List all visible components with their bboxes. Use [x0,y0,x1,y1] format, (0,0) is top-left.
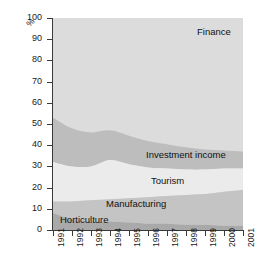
x-tick-label-1997: 1997 [171,228,180,268]
y-tick-label-80: 80 [18,55,42,64]
x-tick-1992 [72,231,73,236]
y-tick-label-50: 50 [18,119,42,128]
series-label-horticulture: Horticulture [60,215,109,225]
y-tick-label-100: 100 [18,13,42,22]
y-tick-label-wrap: 90 [0,34,52,43]
y-tick-label-wrap: 50 [0,119,52,128]
x-tick-1997 [167,231,168,236]
x-tick-1994 [110,231,111,236]
x-tick-1998 [186,231,187,236]
x-tick-label-2001: 2001 [247,228,256,268]
y-tick-label-wrap: 0 [0,225,52,234]
y-tick-label-wrap: 40 [0,140,52,149]
y-tick-label-90: 90 [18,34,42,43]
x-tick-label-1991: 1991 [57,228,66,268]
series-label-finance: Finance [197,27,231,37]
x-tick-2000 [224,231,225,236]
x-tick-1995 [129,231,130,236]
y-tick-label-10: 10 [18,204,42,213]
x-tick-1999 [205,231,206,236]
y-tick-label-wrap: 80 [0,55,52,64]
series-label-investment-income: Investment income [146,150,226,160]
x-tick-label-1995: 1995 [133,228,142,268]
x-tick-label-2000: 2000 [228,228,237,268]
y-tick-label-30: 30 [18,161,42,170]
stacked-area-chart: % 0102030405060708090100 199119921993199… [0,0,259,272]
y-tick-label-wrap: 30 [0,161,52,170]
y-tick-label-0: 0 [18,225,42,234]
x-tick-label-1993: 1993 [95,228,104,268]
y-tick-label-wrap: 10 [0,204,52,213]
x-tick-label-1992: 1992 [76,228,85,268]
x-tick-label-1994: 1994 [114,228,123,268]
x-tick-label-1999: 1999 [209,228,218,268]
y-tick-label-70: 70 [18,77,42,86]
y-tick-label-wrap: 20 [0,183,52,192]
x-tick-1993 [91,231,92,236]
x-tick-label-1998: 1998 [190,228,199,268]
x-tick-2001 [243,231,244,236]
x-tick-1991 [53,231,54,236]
series-label-tourism: Tourism [151,176,184,186]
y-tick-label-wrap: 60 [0,98,52,107]
y-tick-label-wrap: 100 [0,13,52,22]
y-tick-label-60: 60 [18,98,42,107]
y-axis-line [52,18,53,231]
y-tick-label-wrap: 70 [0,77,52,86]
y-tick-label-40: 40 [18,140,42,149]
x-tick-label-1996: 1996 [152,228,161,268]
series-label-manufacturing: Manufacturing [106,199,166,209]
y-tick-label-20: 20 [18,183,42,192]
x-tick-1996 [148,231,149,236]
